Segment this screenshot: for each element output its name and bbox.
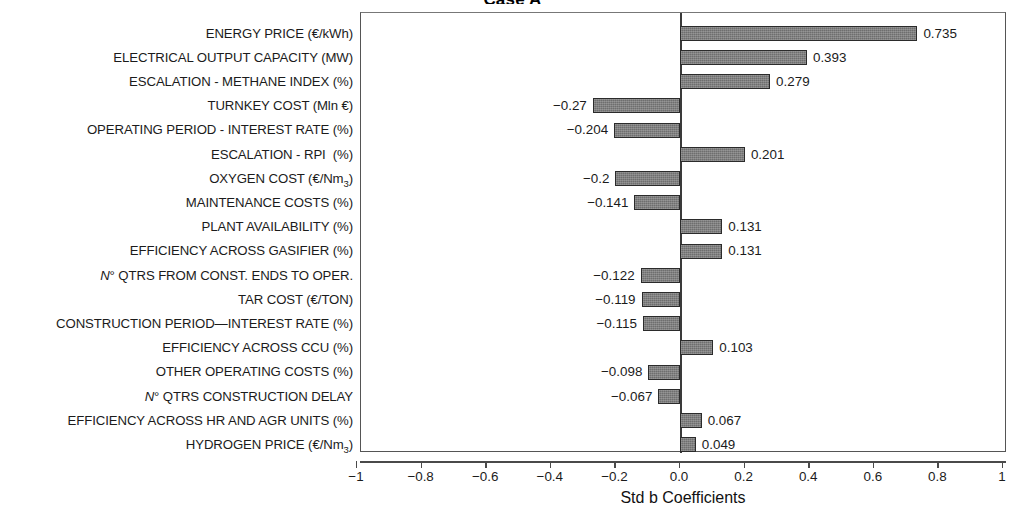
category-label: ESCALATION - METHANE INDEX (%) — [3, 70, 353, 94]
bar-row: EFFICIENCY ACROSS HR AND AGR UNITS (%)0.… — [361, 409, 1007, 433]
bar — [680, 50, 807, 65]
bar-row: TAR COST (€/TON)−0.119 — [361, 288, 1007, 312]
bar — [680, 413, 702, 428]
x-tick-label: −0.4 — [537, 469, 563, 485]
bar-value-label: 0.131 — [728, 239, 762, 263]
category-label: EFFICIENCY ACROSS CCU (%) — [3, 336, 353, 360]
bar — [680, 74, 770, 89]
bar-value-label: −0.27 — [553, 94, 587, 118]
bar-row: ESCALATION - METHANE INDEX (%)0.279 — [361, 70, 1007, 94]
category-label: HYDROGEN PRICE (€/Nm3) — [3, 433, 353, 462]
bar-row: HYDROGEN PRICE (€/Nm3)0.049 — [361, 433, 1007, 457]
bar-row: OXYGEN COST (€/Nm3)−0.2 — [361, 167, 1007, 191]
category-label: CONSTRUCTION PERIOD—INTEREST RATE (%) — [3, 312, 353, 336]
bar-value-label: −0.141 — [587, 191, 628, 215]
bar-value-label: 0.103 — [719, 336, 753, 360]
bar-value-label: 0.131 — [728, 215, 762, 239]
x-tick — [356, 461, 357, 468]
bar-value-label: −0.119 — [595, 288, 635, 312]
bar-value-label: −0.204 — [567, 118, 608, 142]
bar-row: EFFICIENCY ACROSS CCU (%)0.103 — [361, 336, 1007, 360]
plot-frame: ENERGY PRICE (€/kWh)0.735ELECTRICAL OUTP… — [360, 12, 1006, 452]
category-label: ELECTRICAL OUTPUT CAPACITY (MW) — [3, 46, 353, 70]
bar-value-label: −0.098 — [601, 360, 642, 384]
category-label: OPERATING PERIOD - INTEREST RATE (%) — [3, 118, 353, 142]
x-tick — [485, 461, 486, 468]
x-tick-label: 0.8 — [928, 469, 947, 485]
x-tick-label: 0.2 — [734, 469, 753, 485]
bar-value-label: −0.067 — [611, 385, 652, 409]
x-tick-label: −0.2 — [601, 469, 627, 485]
x-axis-line — [360, 461, 1006, 463]
bar-value-label: −0.2 — [583, 167, 609, 191]
bar-value-label: 0.201 — [751, 143, 785, 167]
bar — [615, 171, 680, 186]
x-tick-label: 1 — [998, 469, 1005, 485]
x-axis-label: Std b Coefficients — [360, 489, 1006, 507]
category-label: ESCALATION - RPI (%) — [3, 143, 353, 167]
bar-row: OPERATING PERIOD - INTEREST RATE (%)−0.2… — [361, 118, 1007, 142]
x-tick — [421, 461, 422, 468]
category-label: ENERGY PRICE (€/kWh) — [3, 22, 353, 46]
x-tick — [550, 461, 551, 468]
category-label: OTHER OPERATING COSTS (%) — [3, 360, 353, 384]
x-tick-label: −0.6 — [472, 469, 498, 485]
bar-value-label: 0.049 — [702, 433, 736, 457]
x-tick-label: 0.4 — [799, 469, 818, 485]
bar-row: TURNKEY COST (Mln €)−0.27 — [361, 94, 1007, 118]
x-tick-label: 0.0 — [670, 469, 689, 485]
bar — [680, 26, 917, 41]
category-label: MAINTENANCE COSTS (%) — [3, 191, 353, 215]
bar-value-label: −0.115 — [597, 312, 637, 336]
bar — [680, 219, 722, 234]
bar-row: N° QTRS CONSTRUCTION DELAY−0.067 — [361, 385, 1007, 409]
bar-row: OTHER OPERATING COSTS (%)−0.098 — [361, 360, 1007, 384]
bar-value-label: 0.279 — [776, 70, 810, 94]
x-tick — [1002, 461, 1003, 468]
x-tick-label: −0.8 — [407, 469, 433, 485]
category-label: TURNKEY COST (Mln €) — [3, 94, 353, 118]
bar-value-label: −0.122 — [593, 264, 634, 288]
bar — [680, 340, 713, 355]
category-label: N° QTRS CONSTRUCTION DELAY — [3, 385, 353, 409]
category-label: EFFICIENCY ACROSS HR AND AGR UNITS (%) — [3, 409, 353, 433]
x-tick — [614, 461, 615, 468]
bar — [680, 244, 722, 259]
bar-value-label: 0.393 — [813, 46, 847, 70]
tornado-chart: Case A ENERGY PRICE (€/kWh)0.735ELECTRIC… — [0, 0, 1025, 515]
bar — [680, 147, 745, 162]
category-label: PLANT AVAILABILITY (%) — [3, 215, 353, 239]
chart-title: Case A — [0, 0, 1025, 4]
x-tick — [937, 461, 938, 468]
bar-row: ENERGY PRICE (€/kWh)0.735 — [361, 22, 1007, 46]
bar — [642, 292, 680, 307]
x-tick-label: −1 — [348, 469, 363, 485]
bar — [643, 316, 680, 331]
bar — [680, 437, 696, 452]
bar — [658, 389, 680, 404]
bar-row: EFFICIENCY ACROSS GASIFIER (%)0.131 — [361, 239, 1007, 263]
bar — [634, 195, 680, 210]
bar-row: N° QTRS FROM CONST. ENDS TO OPER.−0.122 — [361, 264, 1007, 288]
bar-row: ELECTRICAL OUTPUT CAPACITY (MW)0.393 — [361, 46, 1007, 70]
category-label: N° QTRS FROM CONST. ENDS TO OPER. — [3, 264, 353, 288]
bar-value-label: 0.735 — [923, 22, 957, 46]
x-tick — [679, 461, 680, 468]
x-tick — [808, 461, 809, 468]
bar-row: CONSTRUCTION PERIOD—INTEREST RATE (%)−0.… — [361, 312, 1007, 336]
bar — [614, 123, 680, 138]
bar — [593, 98, 680, 113]
bar — [648, 365, 680, 380]
category-label: EFFICIENCY ACROSS GASIFIER (%) — [3, 239, 353, 263]
category-label: TAR COST (€/TON) — [3, 288, 353, 312]
x-tick — [873, 461, 874, 468]
x-tick-label: 0.6 — [863, 469, 882, 485]
bar-value-label: 0.067 — [708, 409, 742, 433]
x-tick — [744, 461, 745, 468]
bar-row: ESCALATION - RPI (%)0.201 — [361, 143, 1007, 167]
bar — [641, 268, 680, 283]
bar-row: PLANT AVAILABILITY (%)0.131 — [361, 215, 1007, 239]
bar-row: MAINTENANCE COSTS (%)−0.141 — [361, 191, 1007, 215]
